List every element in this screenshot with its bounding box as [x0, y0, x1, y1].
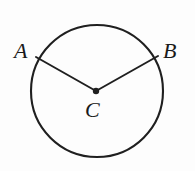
point-label-c: C — [85, 99, 100, 121]
radius-segment-cb — [96, 56, 158, 91]
center-point-marker — [93, 88, 99, 94]
point-label-b: B — [163, 40, 176, 62]
radius-segment-ca — [36, 57, 96, 91]
point-label-a: A — [14, 40, 27, 62]
circle-diagram: A B C — [0, 0, 195, 171]
geometry-canvas — [0, 0, 195, 171]
